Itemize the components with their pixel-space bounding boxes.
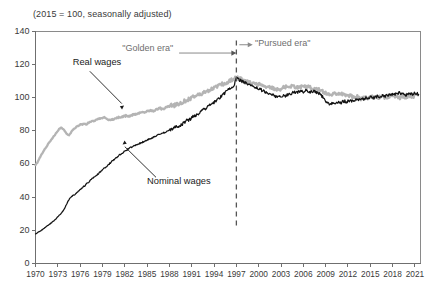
pursued-era-arrowhead — [248, 42, 253, 47]
x-tick-label: 2009 — [316, 269, 335, 279]
x-tick-label: 2003 — [272, 269, 291, 279]
golden-era-arrowhead — [231, 50, 236, 55]
x-tick-label: 1994 — [205, 269, 224, 279]
golden-era-annotation-label: "Golden era" — [122, 43, 173, 53]
x-tick-label: 1991 — [182, 269, 201, 279]
x-tick-label: 1973 — [49, 269, 68, 279]
pursued-era-annotation-label: "Pursued era" — [255, 38, 310, 48]
x-tick-label: 2018 — [383, 269, 402, 279]
x-tick-label: 2006 — [294, 269, 313, 279]
real-wages-annotation-label: Real wages — [73, 57, 122, 67]
y-axis-tick-labels: 020406080100120140 — [14, 26, 29, 268]
chart-annotations-group: Real wagesNominal wages"Golden era""Purs… — [73, 38, 311, 186]
x-tick-label: 1982 — [116, 269, 135, 279]
y-tick-label: 140 — [14, 26, 29, 36]
data-series-group — [36, 76, 419, 234]
y-tick-label: 20 — [19, 225, 29, 235]
real-wages-leader-arrowhead — [120, 106, 124, 110]
y-tick-label: 80 — [19, 125, 29, 135]
y-tick-label: 0 — [24, 258, 29, 268]
x-tick-label: 2015 — [361, 269, 380, 279]
x-tick-label: 1985 — [138, 269, 157, 279]
real-wages-leader-line — [90, 71, 122, 103]
axis-ticks — [32, 32, 415, 268]
nominal-wages-leader-arrowhead — [123, 140, 127, 144]
wage-index-chart-figure: (2015 = 100, seasonally adjusted) 020406… — [0, 0, 448, 304]
x-tick-label: 2012 — [339, 269, 358, 279]
nominal-wages-leader-line — [125, 147, 156, 178]
x-tick-label: 1976 — [71, 269, 90, 279]
x-tick-label: 1988 — [160, 269, 179, 279]
x-tick-label: 1979 — [93, 269, 112, 279]
x-tick-label: 1970 — [26, 269, 45, 279]
real-wages-line — [36, 76, 415, 165]
x-tick-label: 1997 — [227, 269, 246, 279]
x-tick-label: 2021 — [406, 269, 425, 279]
x-axis-tick-labels: 1970197319761979198219851988199119941997… — [26, 269, 424, 279]
chart-canvas: 020406080100120140 197019731976197919821… — [0, 0, 448, 304]
nominal-wages-annotation-label: Nominal wages — [147, 176, 211, 186]
y-tick-label: 60 — [19, 158, 29, 168]
y-tick-label: 100 — [14, 92, 29, 102]
y-tick-label: 120 — [14, 59, 29, 69]
x-tick-label: 2000 — [249, 269, 268, 279]
y-tick-label: 40 — [19, 192, 29, 202]
